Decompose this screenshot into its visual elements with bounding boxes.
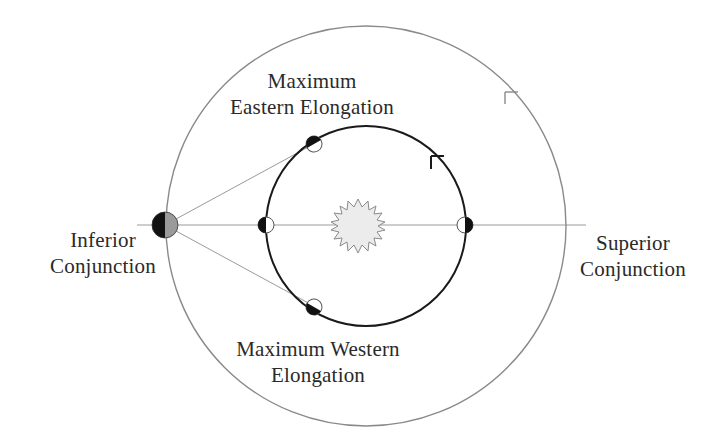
- label-line: Conjunction: [563, 256, 703, 282]
- sun-icon: [331, 199, 385, 253]
- label-max-eastern-elongation: Maximum Eastern Elongation: [222, 68, 402, 120]
- label-line: Conjunction: [38, 253, 168, 279]
- orbital-diagram: Maximum Eastern Elongation Maximum Weste…: [0, 0, 721, 445]
- sight-line-eastern: [165, 145, 312, 225]
- planet-superior-conjunction-icon: [457, 217, 473, 233]
- label-line: Superior: [563, 230, 703, 256]
- label-inferior-conjunction: Inferior Conjunction: [38, 227, 168, 279]
- label-line: Maximum Western: [218, 336, 418, 362]
- label-superior-conjunction: Superior Conjunction: [563, 230, 703, 282]
- label-line: Maximum: [222, 68, 402, 94]
- sight-line-western: [165, 225, 312, 305]
- label-max-western-elongation: Maximum Western Elongation: [218, 336, 418, 388]
- label-line: Inferior: [38, 227, 168, 253]
- label-line: Eastern Elongation: [222, 94, 402, 120]
- label-line: Elongation: [218, 362, 418, 388]
- planet-inferior-conjunction-icon: [258, 217, 274, 233]
